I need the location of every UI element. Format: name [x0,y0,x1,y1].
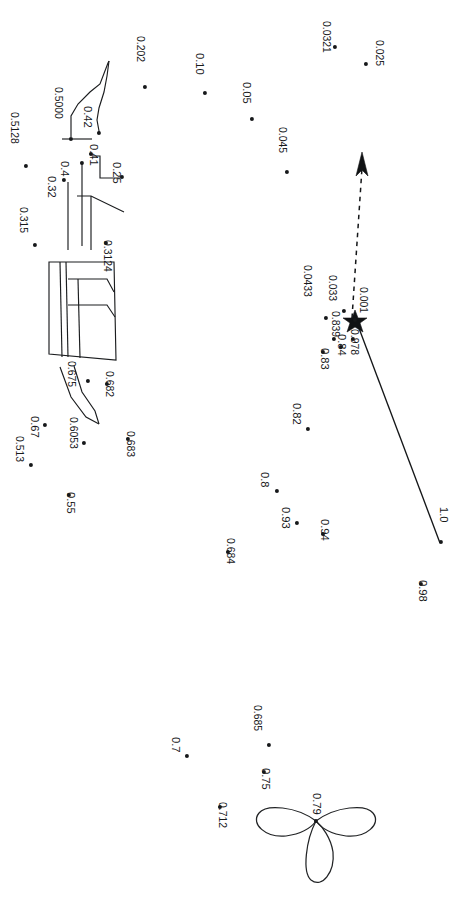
data-point-label: 0.7 [170,737,181,753]
data-point-label: 0.6053 [68,417,78,449]
data-point-label: 0.82 [291,403,302,425]
data-point-label: 0.001 [358,287,368,313]
data-point-label: 0.83 [319,348,330,370]
data-point-label: 0.685 [252,705,262,731]
data-point-label: 0.84 [336,334,347,356]
data-point-label: 0.98 [417,580,428,602]
data-point-label: 0.41 [88,144,99,166]
data-point-label: 0.025 [374,40,384,66]
data-point-label: 0.513 [14,436,24,462]
data-point-label: 0.202 [135,36,145,62]
data-point-label: 0.712 [217,802,227,828]
data-point-label: 1.0 [438,507,449,523]
data-point-label: 0.94 [319,519,330,541]
line-art-layer [0,0,476,899]
data-point-label: 0.682 [104,371,114,397]
data-point-label: 0.10 [194,53,205,75]
data-point-label: 0.683 [125,431,135,457]
data-point-label: 0.5128 [9,112,19,144]
data-point-label: 0.05 [241,82,252,104]
data-point-label: 0.675 [66,361,76,387]
solid-leader-line [357,323,440,543]
data-point-label: 0.42 [82,106,93,128]
data-point-label: 0.32 [46,176,57,198]
data-point-label: 0.033 [327,275,337,301]
data-point-label: 0.55 [65,492,76,514]
data-point-label: 0.315 [18,207,28,233]
data-point-label: 0.4 [59,161,70,177]
quadrilateral-panel [49,262,116,360]
data-point-label: 0.67 [29,416,40,438]
data-point-label: 0.0433 [302,265,312,297]
data-point-label: 0.3124 [102,240,112,272]
data-point-label: 0.25 [111,162,122,184]
data-point-label: 0.0321 [321,21,331,53]
data-point-label: 0.978 [349,329,359,355]
data-point-label: 0.75 [260,768,271,790]
data-point-label: 0.79 [311,793,322,815]
data-point-label: 0.045 [277,127,287,153]
data-point-label: 0.8 [259,472,270,488]
figure-canvas: 0.0250.03210.2020.100.050.0450.50000.512… [0,0,476,899]
data-point-label: 0.839 [330,311,340,337]
data-point-label: 0.684 [225,538,235,564]
data-point-label: 0.93 [280,507,291,529]
data-point-label: 0.5000 [53,87,63,119]
